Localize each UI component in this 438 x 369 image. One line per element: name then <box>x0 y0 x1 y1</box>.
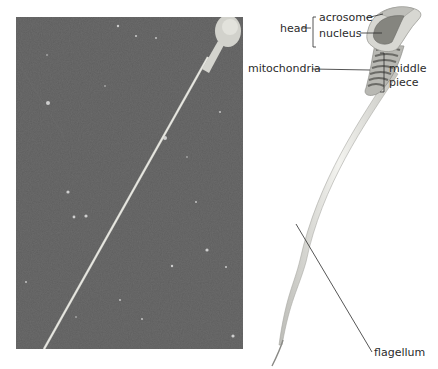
label-middle-piece-line1: middle <box>389 63 427 75</box>
label-middle-piece-line2: piece <box>389 77 419 89</box>
label-nucleus: nucleus <box>319 28 362 40</box>
diagram-flagellum <box>279 70 398 345</box>
label-head: head <box>280 23 307 35</box>
label-mitochondria: mitochondria <box>248 63 321 75</box>
label-flagellum: flagellum <box>374 347 425 359</box>
sperm-diagram <box>0 0 438 369</box>
flagellum-leader-line <box>296 224 372 352</box>
diagram-end-piece <box>272 340 283 366</box>
label-acrosome: acrosome <box>319 12 373 24</box>
head-bracket <box>313 17 316 47</box>
